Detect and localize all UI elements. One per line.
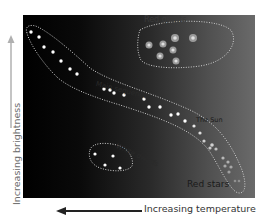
main-sequence-outline (26, 25, 245, 193)
the-sun-label: The Sun (196, 116, 223, 124)
main-sequence-stars (29, 30, 240, 182)
red-stars-label: Red stars (187, 179, 229, 189)
y-axis-label: Increasing brightness (11, 103, 22, 205)
x-axis-label: Increasing temperature (144, 203, 256, 214)
x-axis: Increasing temperature (58, 203, 258, 219)
red-giants-label: Red giants (144, 15, 186, 24)
red-giant-stars (146, 34, 198, 65)
white-dwarf-stars (93, 152, 121, 169)
